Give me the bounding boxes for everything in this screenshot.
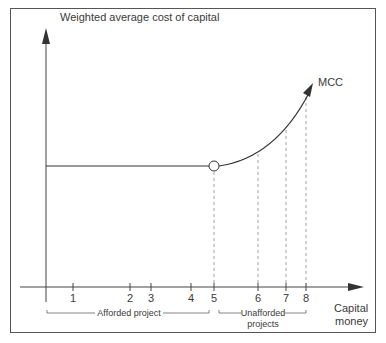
mcc-chart: Weighted average cost of capital Capital… <box>0 0 386 343</box>
break-point-circle <box>209 161 219 171</box>
mcc-arrow-icon <box>303 83 313 97</box>
afforded-label: Afforded project <box>97 308 161 318</box>
y-axis-label: Weighted average cost of capital <box>60 11 219 23</box>
x-axis-label-line1: Capital <box>334 302 368 314</box>
tick-label-2: 2 <box>127 292 133 304</box>
dashed-drop-lines <box>214 97 306 287</box>
tick-label-5: 5 <box>211 292 217 304</box>
chart-frame <box>11 9 376 333</box>
tick-label-1: 1 <box>70 292 76 304</box>
x-axis-arrow-icon <box>348 283 364 291</box>
tick-label-7: 7 <box>283 292 289 304</box>
x-axis-label-line2: money <box>335 315 369 327</box>
tick-label-8: 8 <box>303 292 309 304</box>
mcc-label: MCC <box>318 76 343 88</box>
x-tick-labels: 1 2 3 4 5 6 7 8 <box>70 292 309 304</box>
tick-label-4: 4 <box>188 292 194 304</box>
tick-label-3: 3 <box>148 292 154 304</box>
unafforded-label-line1: Unafforded <box>241 308 285 318</box>
mcc-curve <box>46 93 309 166</box>
tick-label-6: 6 <box>255 292 261 304</box>
unafforded-label-line2: projects <box>247 319 279 329</box>
y-axis-arrow-icon <box>42 28 50 44</box>
